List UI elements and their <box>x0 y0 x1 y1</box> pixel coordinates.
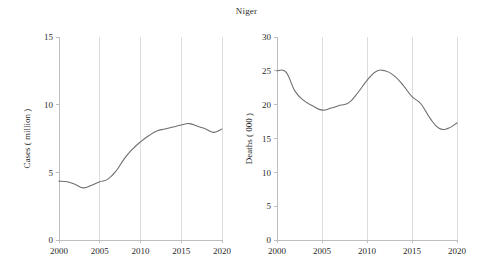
x-tick-label: 2010 <box>358 246 377 256</box>
y-axis-title: Deaths ( 000 ) <box>244 113 254 164</box>
y-tick-label: 15 <box>262 134 272 144</box>
cases-plot-svg: 05101520002005201020152020Cases ( millio… <box>0 0 246 274</box>
x-tick-label: 2015 <box>172 246 191 256</box>
y-tick-label: 25 <box>262 66 272 76</box>
y-tick-label: 20 <box>262 100 272 110</box>
x-axis-ticks: 20002005201020152020 <box>50 240 232 256</box>
x-tick-label: 2000 <box>268 246 287 256</box>
y-tick-label: 0 <box>49 235 54 245</box>
x-tick-label: 2000 <box>50 246 69 256</box>
gridlines <box>322 37 457 240</box>
y-tick-label: 10 <box>262 168 272 178</box>
y-tick-label: 15 <box>44 32 54 42</box>
x-tick-label: 2020 <box>213 246 232 256</box>
chart-panel-cases: 05101520002005201020152020Cases ( millio… <box>0 0 246 274</box>
y-tick-label: 5 <box>49 168 54 178</box>
y-axis-title: Cases ( million ) <box>22 109 32 169</box>
x-tick-label: 2015 <box>403 246 422 256</box>
y-axis-ticks: 051015202530 <box>262 32 277 245</box>
x-tick-label: 2005 <box>313 246 332 256</box>
chart-panel-deaths: 05101520253020002005201020152020Deaths (… <box>246 0 493 274</box>
y-tick-label: 10 <box>44 100 54 110</box>
x-axis-ticks: 20002005201020152020 <box>268 240 467 256</box>
chart-figure: Niger 05101520002005201020152020Cases ( … <box>0 0 493 274</box>
x-tick-label: 2005 <box>91 246 110 256</box>
x-tick-label: 2020 <box>448 246 467 256</box>
gridlines <box>100 37 222 240</box>
y-axis-ticks: 051015 <box>44 32 59 245</box>
y-tick-label: 0 <box>267 235 272 245</box>
x-tick-label: 2010 <box>132 246 151 256</box>
y-tick-label: 30 <box>262 32 272 42</box>
deaths-plot-svg: 05101520253020002005201020152020Deaths (… <box>246 0 493 274</box>
y-tick-label: 5 <box>267 201 272 211</box>
